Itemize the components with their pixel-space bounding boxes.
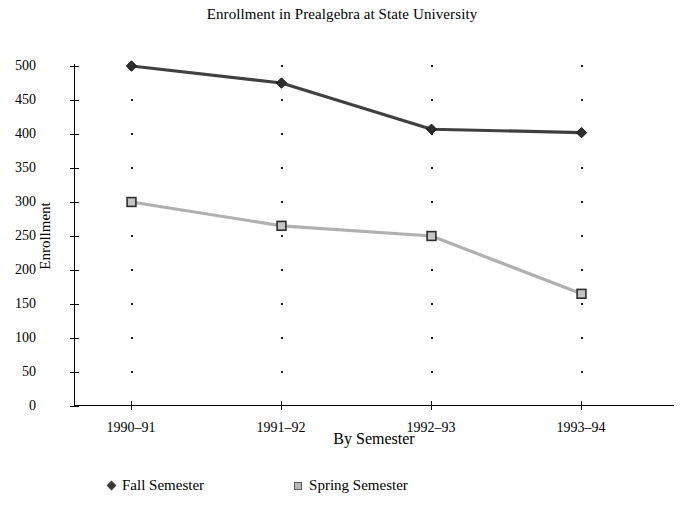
y-tick-label: 500 (0, 59, 36, 73)
legend-item-fall-semester: Fall Semester (108, 478, 204, 493)
data-point-marker (277, 221, 286, 230)
y-tick-label: 250 (0, 229, 36, 243)
data-point-marker (276, 78, 286, 88)
y-tick-label: 400 (0, 127, 36, 141)
y-tick-label: 300 (0, 195, 36, 209)
y-tick-label: 50 (0, 365, 36, 379)
legend-item-spring-semester: Spring Semester (294, 478, 408, 493)
data-point-marker (576, 127, 586, 137)
square-marker-icon (294, 482, 302, 490)
y-axis-title: Enrollment (37, 202, 54, 270)
data-point-marker (426, 124, 436, 134)
y-tick-label: 150 (0, 297, 36, 311)
data-point-marker (427, 232, 436, 241)
chart-container: Enrollment in Prealgebra at State Univer… (0, 0, 684, 507)
legend-label-fall-semester: Fall Semester (122, 478, 204, 493)
x-axis-title: By Semester (74, 430, 674, 448)
data-point-marker (577, 289, 586, 298)
chart-legend: Fall Semester Spring Semester (74, 478, 574, 493)
plot-area: 050100150200250300350400450500 1990–9119… (74, 66, 674, 406)
y-tick-label: 450 (0, 93, 36, 107)
diamond-marker-icon (107, 481, 117, 491)
series-line-fall (132, 66, 582, 133)
y-tick-label: 350 (0, 161, 36, 175)
y-tick (70, 406, 79, 407)
y-tick-label: 0 (0, 399, 36, 413)
legend-label-spring-semester: Spring Semester (309, 478, 408, 493)
y-tick-label: 100 (0, 331, 36, 345)
chart-title: Enrollment in Prealgebra at State Univer… (0, 6, 684, 23)
y-tick-label: 200 (0, 263, 36, 277)
data-point-marker (126, 61, 136, 71)
data-series-layer (74, 66, 674, 406)
data-point-marker (127, 198, 136, 207)
series-line-spring (132, 202, 582, 294)
